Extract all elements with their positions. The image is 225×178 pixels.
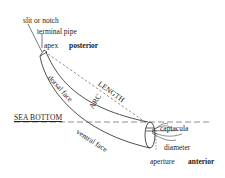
label-apex: apex: [44, 42, 58, 50]
aperture-ellipse: [145, 122, 155, 148]
label-aperture: aperture: [150, 158, 175, 166]
label-slit: slit or notch: [23, 17, 59, 25]
label-diameter: diameter: [164, 144, 190, 152]
label-terminal-pipe: terminal pipe: [37, 28, 77, 36]
label-posterior: posterior: [69, 42, 98, 50]
label-anterior: anterior: [188, 158, 214, 166]
label-captacula: captacula: [160, 125, 188, 133]
apex-end: [40, 50, 47, 56]
label-sea-bottom: SEA BOTTOM: [14, 114, 62, 122]
